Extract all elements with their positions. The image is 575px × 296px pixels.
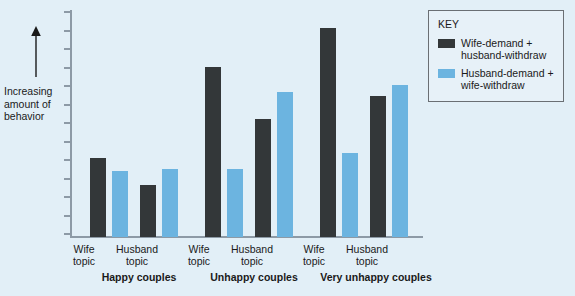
x-axis-tick-label: Wifetopic (285, 243, 343, 268)
bar (370, 96, 386, 237)
bar (162, 169, 178, 237)
y-axis-label: Increasing amount of behavior (4, 85, 66, 123)
legend-entry-label: Husband-demand + wife-withdraw (461, 67, 555, 92)
y-axis-tick (64, 30, 71, 32)
y-axis-tick (64, 159, 71, 161)
legend-swatch-husband-demand (438, 69, 455, 78)
x-axis-group-label: Unhappy couples (196, 271, 312, 283)
legend-swatch-wife-demand (438, 39, 455, 48)
y-axis-tick (64, 196, 71, 198)
bar (205, 67, 221, 237)
legend-entry-label: Wife-demand + husband-withdraw (461, 37, 555, 62)
x-axis-tick-label: Wifetopic (170, 243, 228, 268)
bar (392, 85, 408, 237)
bar (227, 169, 243, 237)
legend-entry: Wife-demand + husband-withdraw (438, 37, 555, 62)
bar (112, 171, 128, 237)
y-axis-tick (64, 67, 71, 69)
bar (342, 153, 358, 237)
y-axis-tick (64, 85, 71, 87)
x-axis-group-label: Happy couples (81, 271, 197, 283)
bar (320, 28, 336, 237)
y-axis-tick (64, 104, 71, 106)
bar (140, 185, 156, 237)
x-axis-tick-label: Husbandtopic (338, 243, 396, 268)
x-axis-tick-label: Husbandtopic (108, 243, 166, 268)
y-axis-tick (64, 141, 71, 143)
x-axis-group-label: Very unhappy couples (311, 271, 441, 283)
y-axis-tick (64, 233, 71, 235)
bar (277, 92, 293, 237)
up-arrow-icon (28, 26, 44, 78)
legend-title: KEY (438, 18, 555, 30)
bar (90, 158, 106, 237)
bar (255, 119, 271, 237)
y-axis-tick (64, 178, 71, 180)
legend-entries: Wife-demand + husband-withdrawHusband-de… (438, 37, 555, 92)
y-axis-tick (64, 122, 71, 124)
legend: KEY Wife-demand + husband-withdrawHusban… (428, 10, 564, 102)
plot-area (72, 10, 423, 237)
x-axis-tick-label: Wifetopic (55, 243, 113, 268)
y-axis-tick (64, 11, 71, 13)
x-axis-tick-label: Husbandtopic (223, 243, 281, 268)
legend-entry: Husband-demand + wife-withdraw (438, 67, 555, 92)
y-axis-tick (64, 48, 71, 50)
bar-chart: Increasing amount of behavior WifetopicH… (0, 0, 575, 296)
y-axis-tick (64, 215, 71, 217)
